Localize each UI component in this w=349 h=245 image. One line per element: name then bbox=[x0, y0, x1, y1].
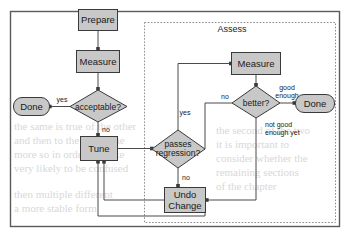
node-done-right[interactable]: Done bbox=[296, 95, 335, 113]
edge-label-yes-acceptable: yes bbox=[57, 96, 68, 104]
node-prepare-label: Prepare bbox=[81, 14, 115, 25]
node-undo-change[interactable]: Undo Change bbox=[165, 188, 206, 213]
node-done-right-label: Done bbox=[304, 98, 327, 109]
edge-label-no-acceptable: no bbox=[102, 126, 110, 133]
node-measure-right[interactable]: Measure bbox=[232, 53, 281, 75]
node-prepare[interactable]: Prepare bbox=[79, 10, 118, 31]
node-better-label: better? bbox=[243, 98, 270, 108]
edge-label-yes-passes: yes bbox=[180, 109, 191, 117]
node-measure-left-label: Measure bbox=[80, 56, 117, 67]
node-passes-regression-label-line2: regression? bbox=[156, 148, 201, 158]
node-better-decision[interactable]: better? bbox=[232, 86, 280, 118]
node-undo-change-label-line2: Change bbox=[168, 200, 201, 211]
edge-better-no-to-passes bbox=[205, 103, 232, 149]
node-measure-left[interactable]: Measure bbox=[77, 51, 120, 73]
edge-label-good-enough-line1: good bbox=[279, 84, 295, 92]
node-acceptable-decision[interactable]: acceptable? bbox=[70, 90, 127, 122]
node-done-left[interactable]: Done bbox=[14, 98, 50, 116]
edge-label-no-better: no bbox=[221, 93, 229, 100]
node-tune-label: Tune bbox=[88, 143, 109, 154]
edge-label-not-good-line1: not good bbox=[265, 121, 292, 129]
diagram-canvas: the same is true of the other and then t… bbox=[0, 0, 349, 245]
edge-undo-to-tune bbox=[104, 162, 164, 200]
edge-label-not-good-line2: enough yet bbox=[265, 129, 300, 137]
edge-label-no-passes: no bbox=[182, 174, 190, 181]
node-done-left-label: Done bbox=[20, 101, 43, 112]
edge-label-good-enough-line2: enough bbox=[275, 92, 298, 100]
flowchart: Assess yes no yes no good bbox=[0, 0, 349, 245]
node-undo-change-label-line1: Undo bbox=[174, 189, 197, 200]
edge-better-not-good-to-undo bbox=[207, 118, 256, 200]
node-passes-regression-decision[interactable]: passes regression? bbox=[152, 130, 205, 168]
assess-group-label: Assess bbox=[217, 24, 247, 34]
node-tune[interactable]: Tune bbox=[81, 137, 118, 161]
node-measure-right-label: Measure bbox=[238, 58, 275, 69]
node-acceptable-label: acceptable? bbox=[75, 102, 121, 112]
